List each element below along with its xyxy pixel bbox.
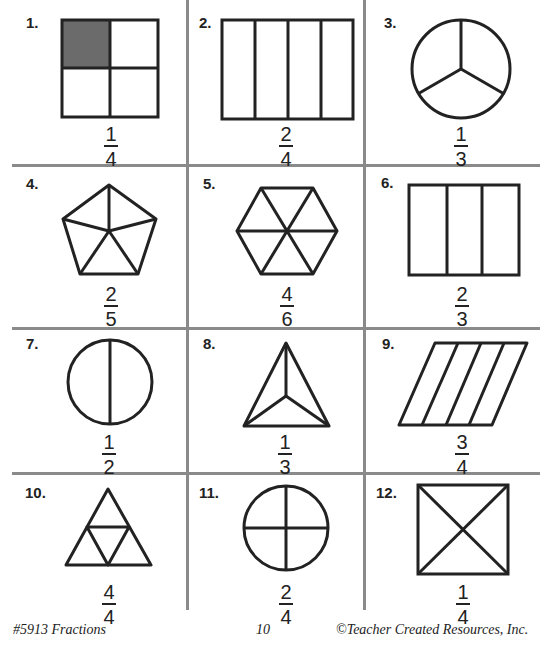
fraction: 1 4 xyxy=(448,582,478,627)
circle-halves-icon xyxy=(65,337,155,427)
fraction: 1 2 xyxy=(94,432,124,477)
fraction: 1 3 xyxy=(270,432,300,477)
problem-number: 1. xyxy=(26,14,39,31)
square-diagonals-icon xyxy=(416,483,510,577)
fraction: 2 5 xyxy=(96,284,126,329)
footer-page-number: 10 xyxy=(256,622,270,638)
fraction: 1 4 xyxy=(96,124,126,169)
fraction: 2 4 xyxy=(271,582,301,627)
pentagon-fifths-icon xyxy=(60,182,160,278)
triangle-thirds-icon xyxy=(242,340,332,430)
problem-number: 10. xyxy=(25,484,46,501)
problem-number: 8. xyxy=(203,335,216,352)
footer-book-title: #5913 Fractions xyxy=(13,622,106,638)
problem-number: 7. xyxy=(26,335,39,352)
grid-divider-vertical-2 xyxy=(363,0,366,610)
problem-number: 4. xyxy=(26,175,39,192)
problem-number: 3. xyxy=(384,14,397,31)
problem-number: 5. xyxy=(203,175,216,192)
grid-divider-vertical-1 xyxy=(186,0,189,610)
fraction: 4 4 xyxy=(94,582,124,627)
problem-number: 6. xyxy=(381,174,394,191)
fraction: 2 4 xyxy=(271,124,301,169)
problem-number: 9. xyxy=(382,335,395,352)
fraction: 3 4 xyxy=(447,432,477,477)
footer-copyright: ©Teacher Created Resources, Inc. xyxy=(336,622,528,638)
problem-number: 11. xyxy=(199,484,219,501)
circle-thirds-icon xyxy=(409,17,513,121)
problem-number: 12. xyxy=(376,484,397,501)
fraction: 1 3 xyxy=(446,124,476,169)
rectangle-fourths-icon xyxy=(220,18,356,122)
hexagon-sixths-icon xyxy=(235,186,339,276)
rectangle-thirds-icon xyxy=(407,183,521,277)
fraction: 2 3 xyxy=(447,284,477,329)
problem-number: 2. xyxy=(199,14,212,31)
triangle-fourths-icon xyxy=(64,486,154,568)
circle-quarters-icon xyxy=(241,483,331,573)
square-quarters-icon xyxy=(60,18,160,120)
fraction: 4 6 xyxy=(272,284,302,329)
parallelogram-fourths-icon xyxy=(396,340,530,428)
